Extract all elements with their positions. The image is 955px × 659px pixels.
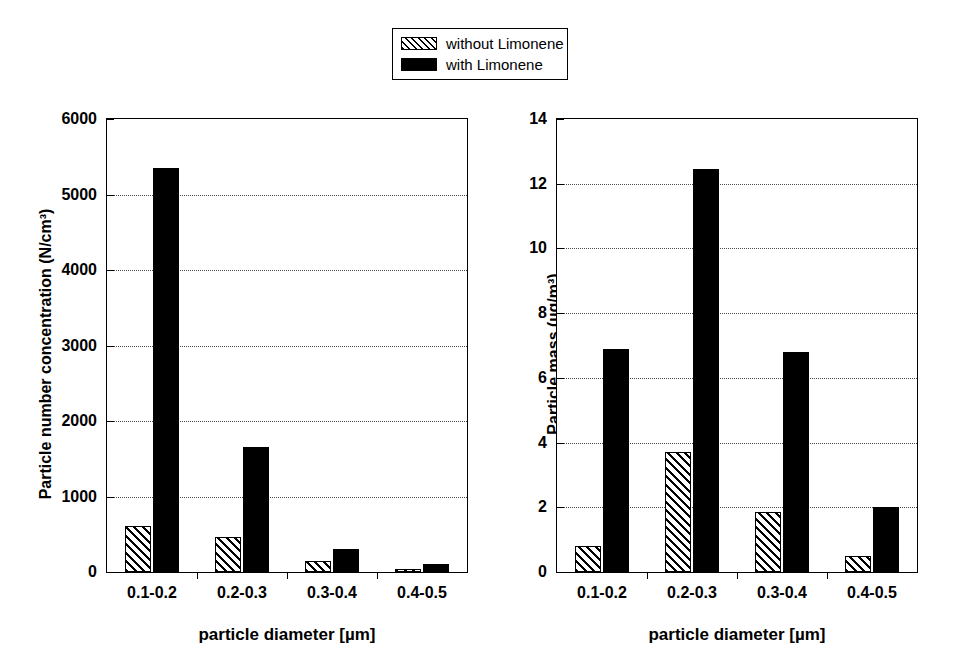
- bar-with-limonene: [243, 447, 269, 572]
- bar-without-limonene: [575, 546, 601, 572]
- y-axis-tick-label: 4000: [61, 261, 97, 279]
- y-axis-tick-label: 14: [529, 110, 547, 128]
- bar-with-limonene: [153, 168, 179, 572]
- y-axis-tick: [557, 313, 564, 314]
- x-axis-tick: [647, 572, 648, 579]
- x-axis-tick: [287, 572, 288, 579]
- bar-with-limonene: [603, 349, 629, 572]
- plot-area: 024681012140.1-0.20.2-0.30.3-0.40.4-0.5: [556, 118, 918, 573]
- bar-with-limonene: [423, 564, 449, 572]
- x-axis-title: particle diameter [µm]: [106, 625, 468, 645]
- y-axis-tick: [557, 378, 564, 379]
- y-axis-tick: [107, 497, 114, 498]
- y-axis-tick-label: 0: [88, 563, 97, 581]
- x-axis-tick-label: 0.4-0.5: [397, 584, 447, 602]
- y-axis-tick: [557, 119, 564, 120]
- bar-without-limonene: [845, 556, 871, 572]
- y-axis-tick-label: 8: [538, 304, 547, 322]
- y-axis-tick-label: 3000: [61, 337, 97, 355]
- y-axis-tick: [107, 270, 114, 271]
- y-axis-tick: [107, 346, 114, 347]
- x-axis-tick-label: 0.1-0.2: [127, 584, 177, 602]
- x-axis-tick-label: 0.4-0.5: [847, 584, 897, 602]
- y-axis-tick: [107, 195, 114, 196]
- x-axis-tick-label: 0.1-0.2: [577, 584, 627, 602]
- y-axis-tick-label: 2: [538, 498, 547, 516]
- bar-with-limonene: [873, 507, 899, 572]
- x-axis-tick: [737, 572, 738, 579]
- y-axis-tick-label: 5000: [61, 186, 97, 204]
- x-axis-tick: [197, 572, 198, 579]
- gridline: [557, 248, 917, 249]
- gridline: [557, 313, 917, 314]
- x-axis-tick: [827, 572, 828, 579]
- y-axis-tick-label: 0: [538, 563, 547, 581]
- y-axis-tick-label: 12: [529, 175, 547, 193]
- bar-without-limonene: [755, 512, 781, 572]
- y-axis-tick-label: 1000: [61, 488, 97, 506]
- y-axis-tick: [557, 248, 564, 249]
- plot-area: 01000200030004000500060000.1-0.20.2-0.30…: [106, 118, 468, 573]
- x-axis-tick-label: 0.3-0.4: [307, 584, 357, 602]
- chart-panel-particle-mass: Particle mass (µg/m³) 024681012140.1-0.2…: [450, 0, 927, 659]
- bar-without-limonene: [215, 537, 241, 572]
- y-axis-tick: [557, 184, 564, 185]
- y-axis-title: Particle number concentration (N/cm³): [37, 154, 55, 554]
- y-axis-tick: [557, 443, 564, 444]
- x-axis-tick: [377, 572, 378, 579]
- x-axis-tick-label: 0.3-0.4: [757, 584, 807, 602]
- y-axis-tick-label: 2000: [61, 412, 97, 430]
- bar-without-limonene: [125, 526, 151, 572]
- bar-without-limonene: [395, 569, 421, 572]
- bar-with-limonene: [693, 169, 719, 572]
- chart-panel-particle-number: Particle number concentration (N/cm³) 01…: [0, 0, 477, 659]
- y-axis-tick-label: 4: [538, 434, 547, 452]
- y-axis-tick-label: 10: [529, 239, 547, 257]
- y-axis-tick: [557, 507, 564, 508]
- y-axis-tick: [107, 119, 114, 120]
- x-axis-title: particle diameter [µm]: [556, 625, 918, 645]
- y-axis-tick: [557, 572, 564, 573]
- gridline: [557, 184, 917, 185]
- x-axis-tick-label: 0.2-0.3: [217, 584, 267, 602]
- y-axis-tick-label: 6000: [61, 110, 97, 128]
- bar-without-limonene: [665, 452, 691, 572]
- x-axis-tick-label: 0.2-0.3: [667, 584, 717, 602]
- y-axis-tick: [107, 572, 114, 573]
- y-axis-tick-label: 6: [538, 369, 547, 387]
- bar-without-limonene: [305, 561, 331, 572]
- y-axis-tick: [107, 421, 114, 422]
- bar-with-limonene: [783, 352, 809, 572]
- bar-with-limonene: [333, 549, 359, 572]
